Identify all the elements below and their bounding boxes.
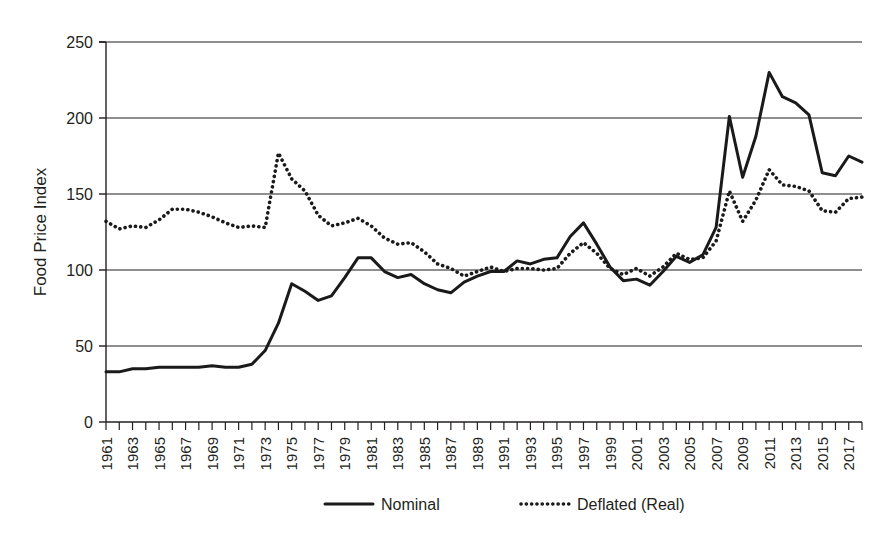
x-tick-label-2009: 2009 [734, 437, 751, 470]
x-tick-label-1985: 1985 [416, 437, 433, 470]
series-line-nominal [106, 72, 862, 371]
legend: NominalDeflated (Real) [325, 496, 685, 513]
x-tick-label-1967: 1967 [177, 437, 194, 470]
x-tick-label-1965: 1965 [151, 437, 168, 470]
x-tick-label-2001: 2001 [628, 437, 645, 470]
x-tick-label-2007: 2007 [708, 437, 725, 470]
y-tick-label-0: 0 [84, 414, 93, 431]
x-tick-label-1977: 1977 [310, 437, 327, 470]
x-tick-label-1961: 1961 [98, 437, 115, 470]
x-tick-label-1971: 1971 [230, 437, 247, 470]
food-price-index-chart: 050100150200250 196119631965196719691971… [0, 0, 889, 539]
x-tick-label-1991: 1991 [495, 437, 512, 470]
x-tick-label-1973: 1973 [257, 437, 274, 470]
y-tick-label-150: 150 [66, 186, 93, 203]
x-tick-label-1979: 1979 [336, 437, 353, 470]
x-tick-label-2013: 2013 [787, 437, 804, 470]
x-tick-labels: 1961196319651967196919711973197519771979… [98, 437, 858, 470]
y-tick-labels: 050100150200250 [66, 34, 93, 431]
x-tick-label-1975: 1975 [283, 437, 300, 470]
y-tick-label-200: 200 [66, 110, 93, 127]
y-tick-label-250: 250 [66, 34, 93, 51]
x-tick-label-1981: 1981 [363, 437, 380, 470]
x-tick-label-1969: 1969 [204, 437, 221, 470]
y-tick-label-100: 100 [66, 262, 93, 279]
legend-label-nominal: Nominal [381, 496, 440, 513]
gridlines [106, 42, 862, 346]
y-tick-label-50: 50 [75, 338, 93, 355]
x-tick-label-2005: 2005 [681, 437, 698, 470]
x-tick-label-2017: 2017 [840, 437, 857, 470]
series-layer [106, 72, 862, 371]
chart-canvas: 050100150200250 196119631965196719691971… [0, 0, 889, 539]
x-tick-label-1993: 1993 [522, 437, 539, 470]
x-tick-label-2003: 2003 [655, 437, 672, 470]
x-tick-label-1995: 1995 [548, 437, 565, 470]
x-tick-label-1989: 1989 [469, 437, 486, 470]
x-tick-label-2015: 2015 [814, 437, 831, 470]
x-tick-label-1997: 1997 [575, 437, 592, 470]
x-tick-label-1983: 1983 [389, 437, 406, 470]
x-tick-label-1963: 1963 [124, 437, 141, 470]
legend-label-deflated-real: Deflated (Real) [577, 496, 685, 513]
series-line-deflated-real [106, 153, 862, 276]
x-tick-marks [106, 422, 862, 430]
x-tick-label-1999: 1999 [602, 437, 619, 470]
y-axis-title: Food Price Index [31, 167, 50, 296]
y-tick-marks [99, 42, 106, 422]
x-tick-label-1987: 1987 [442, 437, 459, 470]
x-tick-label-2011: 2011 [761, 437, 778, 469]
